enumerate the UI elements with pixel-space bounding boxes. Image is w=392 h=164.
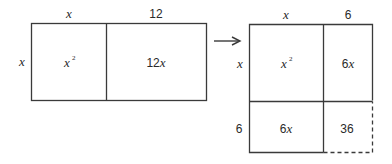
cell-top-left-base: x [280, 56, 287, 71]
cell-bottom-right-text: 36 [340, 122, 354, 136]
cell-top-left-x-squared: x 2 [280, 55, 293, 71]
right-square-solid-outline [250, 25, 373, 153]
right-side-label-x: x [236, 56, 243, 71]
left-top-label-12: 12 [149, 7, 163, 21]
left-rectangle-figure: x 12 x x 2 12x [18, 6, 206, 101]
right-side-label-6: 6 [236, 122, 243, 136]
cell-x-squared-exponent: 2 [72, 54, 76, 62]
cell-top-left-exponent: 2 [289, 55, 293, 63]
right-square-figure: x 6 x 6 x 2 6x 6x 36 [236, 7, 373, 153]
cell-bottom-right-36: 36 [340, 122, 354, 136]
cell-bottom-left-text: 6x [280, 121, 293, 136]
left-rectangle-outline [32, 24, 207, 101]
cell-bottom-left-6x: 6x [280, 121, 293, 136]
right-top-label-x: x [282, 7, 289, 22]
cell-12x: 12x [146, 55, 165, 70]
cell-x-squared-base: x [63, 55, 70, 70]
right-top-label-6: 6 [345, 8, 352, 22]
cell-top-right-6x: 6x [342, 56, 355, 71]
completing-the-square-diagram: x 12 x x 2 12x x 6 x 6 x 2 6x 6x [0, 0, 392, 164]
cell-12x-text: 12x [146, 55, 165, 70]
left-side-label-x: x [18, 54, 25, 69]
cell-x-squared: x 2 [63, 54, 76, 70]
cell-top-right-text: 6x [342, 56, 355, 71]
right-arrow-icon [214, 37, 240, 45]
left-top-label-x: x [65, 6, 72, 21]
